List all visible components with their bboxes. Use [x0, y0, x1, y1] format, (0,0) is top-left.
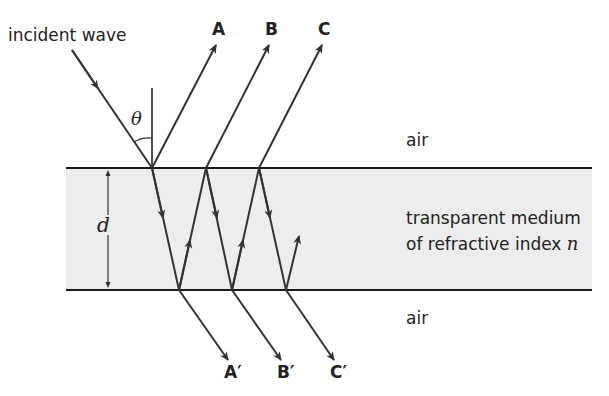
- transmitted-ray-a: [179, 290, 228, 360]
- incident-wave-label: incident wave: [8, 27, 127, 44]
- air-top-label: air: [406, 132, 428, 149]
- label-c: C: [318, 21, 330, 38]
- reflected-ray-c: [259, 45, 322, 168]
- reflected-ray-b: [206, 45, 269, 168]
- theta-arc: [134, 138, 152, 142]
- transmitted-ray-b: [232, 290, 281, 360]
- transmitted-ray-c: [286, 290, 334, 360]
- label-b-prime: B′: [277, 364, 294, 381]
- label-a-prime: A′: [224, 364, 242, 381]
- medium-label-line1: transparent medium: [406, 210, 581, 227]
- theta-label: θ: [131, 110, 142, 128]
- transparent-medium: [66, 168, 592, 290]
- medium-label-line2: of refractive index n: [406, 235, 578, 253]
- thickness-label: d: [95, 215, 112, 235]
- reflected-ray-a: [152, 45, 216, 168]
- diagram-canvas: [0, 0, 609, 396]
- thin-film-diagram: incident wave θ A B C air air transparen…: [0, 0, 609, 396]
- air-bottom-label: air: [406, 310, 428, 327]
- medium-label-prefix: of refractive index: [406, 234, 567, 254]
- refractive-index-symbol: n: [567, 233, 579, 254]
- label-b: B: [265, 21, 278, 38]
- label-c-prime: C′: [330, 364, 347, 381]
- label-a: A: [212, 21, 225, 38]
